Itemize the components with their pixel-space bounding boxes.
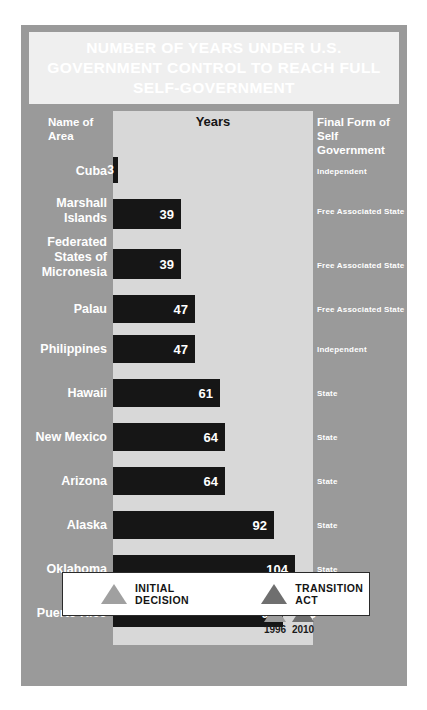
bar-cuba[interactable]: 3 (113, 157, 118, 183)
row-label-line: Micronesia (42, 265, 107, 280)
final-form-value: Independent (317, 151, 405, 191)
table-row[interactable]: New Mexico64State (21, 417, 407, 457)
row-label-hawaii: Hawaii (21, 373, 107, 413)
table-row[interactable]: Arizona64State (21, 461, 407, 501)
legend-item-transition-act: TRANSITION ACT (261, 582, 369, 606)
page-title: NUMBER OF YEARS UNDER U.S. GOVERNMENT CO… (29, 38, 399, 98)
final-form-value: State (317, 505, 405, 545)
row-label-line: Marshall (56, 196, 107, 211)
bar-marshall-islands[interactable]: 39 (113, 199, 181, 229)
bar-value-label: 47 (174, 342, 195, 357)
final-form-value: State (317, 373, 405, 413)
row-label-line: Cuba (76, 164, 107, 178)
infographic-poster: NUMBER OF YEARS UNDER U.S. GOVERNMENT CO… (21, 25, 407, 686)
legend: INITIAL DECISION TRANSITION ACT (62, 572, 370, 616)
row-label-line: New Mexico (35, 430, 107, 444)
legend-label-transition-act: TRANSITION ACT (295, 582, 369, 606)
row-label-line: Hawaii (67, 386, 107, 400)
column-header-final-line1: Final Form of Self (317, 115, 403, 143)
row-label-arizona: Arizona (21, 461, 107, 501)
bar-value-label: 64 (204, 430, 225, 445)
final-form-value: Free Associated State (317, 245, 405, 285)
bar-value-label: 64 (204, 474, 225, 489)
final-form-value: Free Associated State (317, 289, 405, 329)
column-header-name-line1: Name of (48, 115, 110, 129)
bar-philippines[interactable]: 47 (113, 335, 195, 363)
bar-value-label: 47 (174, 302, 195, 317)
table-row[interactable]: FederatedStates ofMicronesia39Free Assoc… (21, 237, 407, 277)
row-label-marshall-islands: MarshallIslands (21, 191, 107, 231)
row-label-line: Philippines (40, 342, 107, 356)
bar-arizona[interactable]: 64 (113, 467, 225, 495)
row-label-federated-states-of-micronesia: FederatedStates ofMicronesia (21, 237, 107, 277)
final-form-value: Free Associated State (317, 191, 405, 231)
row-label-palau: Palau (21, 289, 107, 329)
row-label-line: Arizona (61, 474, 107, 488)
table-row[interactable]: Cuba3Independent (21, 151, 407, 191)
table-row[interactable]: Philippines47Independent (21, 329, 407, 369)
table-row[interactable]: MarshallIslands39Free Associated State (21, 191, 407, 231)
row-label-line: Islands (56, 211, 107, 226)
row-label-new-mexico: New Mexico (21, 417, 107, 457)
triangle-light-icon (101, 584, 127, 604)
legend-item-initial-decision: INITIAL DECISION (101, 582, 211, 606)
final-form-value: Independent (317, 329, 405, 369)
row-label-line: Palau (74, 302, 107, 316)
row-label-line: Alaska (67, 518, 107, 532)
row-label-philippines: Philippines (21, 329, 107, 369)
marker-year-label: 2010 (287, 624, 319, 635)
triangle-dark-icon (261, 584, 287, 604)
bar-federated-states-of-micronesia[interactable]: 39 (113, 249, 181, 279)
bar-value-label: 39 (160, 257, 181, 272)
final-form-value: State (317, 461, 405, 501)
bar-value-label: 92 (253, 518, 274, 533)
table-row[interactable]: Alaska92State (21, 505, 407, 545)
column-header-years: Years (113, 115, 313, 129)
legend-label-initial-decision: INITIAL DECISION (135, 582, 211, 606)
bar-alaska[interactable]: 92 (113, 511, 274, 539)
bar-value-label: 39 (160, 207, 181, 222)
column-header-name-of-area: Name of Area (48, 115, 110, 143)
table-row[interactable]: Palau47Free Associated State (21, 289, 407, 329)
row-label-cuba: Cuba (21, 151, 107, 191)
title-panel: NUMBER OF YEARS UNDER U.S. GOVERNMENT CO… (29, 32, 399, 104)
table-header-row: Name of Area Years Final Form of Self Go… (21, 111, 407, 149)
bar-hawaii[interactable]: 61 (113, 379, 220, 407)
column-header-name-line2: Area (48, 129, 110, 143)
row-label-line: States of (42, 250, 107, 265)
row-label-line: Federated (42, 235, 107, 250)
bar-palau[interactable]: 47 (113, 295, 195, 323)
bar-value-label: 3 (107, 163, 118, 177)
bar-value-label: 61 (199, 386, 220, 401)
table-row[interactable]: Hawaii61State (21, 373, 407, 413)
row-label-alaska: Alaska (21, 505, 107, 545)
final-form-value: State (317, 417, 405, 457)
bar-new-mexico[interactable]: 64 (113, 423, 225, 451)
